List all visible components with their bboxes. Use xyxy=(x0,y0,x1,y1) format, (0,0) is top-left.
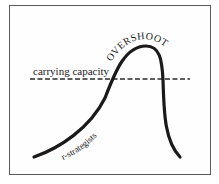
population-curve-diagram: carrying capacity OVERSHOOT r-strategist… xyxy=(0,0,219,184)
r-strategists-text: r-strategists xyxy=(60,130,99,162)
population-curve xyxy=(34,46,180,157)
carrying-capacity-label: carrying capacity xyxy=(33,65,110,77)
r-strategists-label: r-strategists xyxy=(60,130,99,162)
